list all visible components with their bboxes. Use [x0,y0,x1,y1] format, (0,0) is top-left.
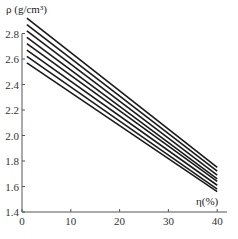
y-axis-title: ρ (g/cm³) [6,3,47,16]
series-line [27,44,217,182]
x-tick-label: 20 [114,215,126,227]
y-tick-label: 2.0 [5,130,19,142]
y-axis: 1.41.61.82.02.22.42.62.8 [5,28,25,219]
x-axis-title: η(%) [196,195,219,208]
y-tick-label: 1.4 [5,206,19,218]
y-tick-label: 2.8 [5,28,19,40]
series-line [27,37,217,179]
series-line [27,50,217,185]
series-lines [27,18,217,191]
series-line [27,63,217,192]
series-line [27,18,217,167]
series-line [27,31,217,175]
x-tick-label: 0 [19,215,25,227]
y-tick-label: 1.6 [5,181,19,193]
y-tick-label: 2.2 [5,104,19,116]
density-vs-porosity-chart: 1.41.61.82.02.22.42.62.8 010203040 ρ (g/… [0,0,238,239]
x-tick-label: 10 [65,215,77,227]
x-tick-label: 40 [212,215,224,227]
series-line [27,25,217,172]
y-tick-label: 2.6 [5,53,19,65]
y-tick-label: 1.8 [5,155,19,167]
y-tick-label: 2.4 [5,79,19,91]
x-axis: 010203040 [19,209,227,227]
series-line [27,56,217,189]
x-tick-label: 30 [163,215,175,227]
